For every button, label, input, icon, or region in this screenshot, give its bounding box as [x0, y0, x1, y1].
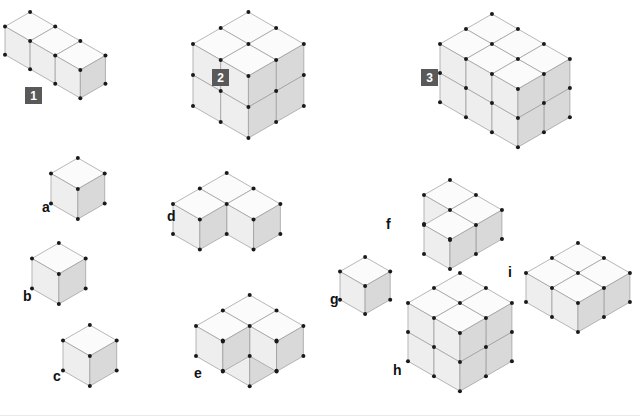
figure-letter-label-f: f	[386, 217, 391, 231]
figure-letter-label-a: a	[42, 200, 50, 214]
figure-h-drawing	[402, 267, 518, 397]
figure-3	[434, 8, 576, 153]
figure-f-drawing	[418, 174, 508, 275]
figure-e-drawing	[190, 289, 309, 392]
figure-e	[190, 289, 309, 392]
figure-letter-label-h: h	[393, 363, 402, 377]
figure-letter-label-d: d	[167, 209, 176, 223]
figure-number-badge-2: 2	[212, 69, 229, 86]
figure-a-drawing	[45, 152, 111, 225]
figure-1-drawing	[0, 6, 111, 104]
figure-c-drawing	[57, 319, 123, 392]
figure-i	[520, 237, 636, 338]
figure-2-drawing	[187, 6, 310, 144]
figure-letter-label-c: c	[53, 369, 61, 383]
figure-b-drawing	[26, 237, 92, 310]
figure-a	[45, 152, 111, 225]
figure-letter-label-e: e	[194, 366, 202, 380]
figure-d	[167, 167, 286, 256]
figure-c	[57, 319, 123, 392]
shapes-canvas: 123abcdefghi	[0, 0, 640, 416]
figure-letter-label-b: b	[23, 289, 32, 303]
figure-letter-label-i: i	[508, 265, 512, 279]
figure-i-drawing	[520, 237, 636, 338]
figure-1	[0, 6, 111, 104]
figure-letter-label-g: g	[330, 292, 339, 306]
figure-number-badge-1: 1	[25, 87, 42, 104]
figure-2	[187, 6, 310, 144]
figure-b	[26, 237, 92, 310]
figure-d-drawing	[167, 167, 286, 256]
figure-g	[334, 251, 396, 320]
figure-number-badge-3: 3	[421, 69, 438, 86]
figure-g-drawing	[334, 251, 396, 320]
figure-f	[418, 174, 508, 275]
figure-h	[402, 267, 518, 397]
figure-3-drawing	[434, 8, 576, 153]
